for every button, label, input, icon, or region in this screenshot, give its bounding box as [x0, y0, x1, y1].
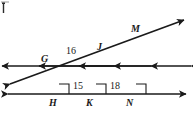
cropped-corner-artifact: [1, 0, 10, 13]
right-angle-at-N: [136, 84, 146, 94]
length-label-HK: 15: [73, 81, 83, 91]
point-label-H: H: [49, 98, 57, 108]
point-label-K: K: [86, 98, 93, 108]
length-label-KN: 18: [110, 81, 120, 91]
point-label-G: G: [41, 54, 48, 64]
length-label-GJ: 16: [66, 46, 76, 56]
point-label-N: N: [126, 98, 133, 108]
geometry-figure: G J M H K N 16 15 18: [0, 0, 193, 126]
right-angle-at-H: [59, 84, 69, 94]
point-label-M: M: [131, 24, 140, 34]
figure-canvas: [0, 0, 193, 126]
right-angle-at-K: [96, 84, 106, 94]
transversal-line: [10, 20, 184, 84]
point-label-J: J: [97, 42, 102, 52]
